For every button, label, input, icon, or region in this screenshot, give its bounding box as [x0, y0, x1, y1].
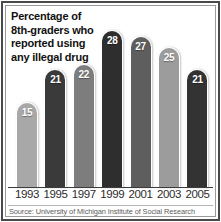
bar[interactable]: 15 [17, 103, 37, 187]
bar-series: 15212228272521 [6, 6, 215, 187]
x-axis-tick-label: 1997 [71, 188, 97, 200]
chart-figure: Percentage of 8th-graders who reported u… [0, 0, 221, 222]
x-axis-tick-label: 1999 [99, 188, 125, 200]
x-axis-tick-label: 2001 [128, 188, 154, 200]
x-axis-tick-label: 2005 [184, 188, 210, 200]
bar[interactable]: 22 [74, 65, 94, 187]
bar[interactable]: 27 [131, 37, 151, 187]
x-axis-tick-label: 1995 [42, 188, 68, 200]
x-axis-tick-label: 2003 [156, 188, 182, 200]
bar[interactable]: 25 [159, 48, 179, 187]
source-divider [8, 205, 213, 206]
bar-value-label: 27 [131, 41, 151, 52]
bar-value-label: 21 [45, 74, 65, 85]
bar[interactable]: 21 [45, 70, 65, 187]
x-axis-tick-label: 1993 [14, 188, 40, 200]
bar-value-label: 28 [102, 35, 122, 46]
plot-area: Percentage of 8th-graders who reported u… [6, 6, 215, 216]
source-note: Source: University of Michigan Institute… [9, 207, 195, 216]
bar-value-label: 21 [187, 74, 207, 85]
x-axis-tick-labels: 1993199519971999200120032005 [6, 188, 215, 204]
bar-value-label: 22 [74, 69, 94, 80]
bar[interactable]: 28 [102, 31, 122, 187]
bar[interactable]: 21 [187, 70, 207, 187]
bar-value-label: 15 [17, 107, 37, 118]
bar-value-label: 25 [159, 52, 179, 63]
